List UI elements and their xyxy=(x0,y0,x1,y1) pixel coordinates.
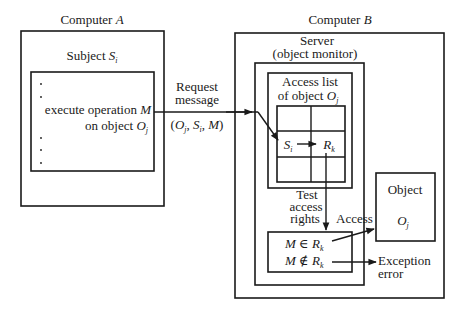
computer-b: Computer B Server (object monitor) Acces… xyxy=(235,12,444,298)
access-list-label-line-1: Access list xyxy=(282,74,338,89)
ellipsis-dots xyxy=(40,83,42,164)
condition-in: M ∈ Rk xyxy=(284,236,324,253)
object-label: Object xyxy=(388,182,423,197)
entry-rights: Rk xyxy=(322,137,335,154)
exception-label-line-2: error xyxy=(378,266,404,281)
entry-subject: Si xyxy=(284,137,293,154)
server-label-line-2: (object monitor) xyxy=(273,46,358,61)
operation-line-1: execute operation M xyxy=(45,102,152,117)
request-tuple: (Oj, Si, M) xyxy=(171,117,224,134)
access-control-diagram: Computer A Subject Si execute operation … xyxy=(0,0,464,317)
condition-not-in: M ∉ Rk xyxy=(284,253,324,270)
access-arrow xyxy=(332,229,374,241)
request-message: Request message (Oj, Si, M) xyxy=(154,79,278,140)
computer-b-title: Computer B xyxy=(308,12,371,27)
test-label-line-3: rights xyxy=(290,211,320,226)
computer-a: Computer A Subject Si execute operation … xyxy=(21,12,164,206)
subject-label: Subject Si xyxy=(67,48,118,65)
access-list-label-line-2: of object Oj xyxy=(278,88,339,105)
operation-line-2: on object Oj xyxy=(85,118,149,135)
computer-a-title: Computer A xyxy=(60,12,123,27)
request-label-line-2: message xyxy=(175,92,219,107)
access-label: Access xyxy=(336,211,373,226)
object-var: Oj xyxy=(397,213,409,230)
